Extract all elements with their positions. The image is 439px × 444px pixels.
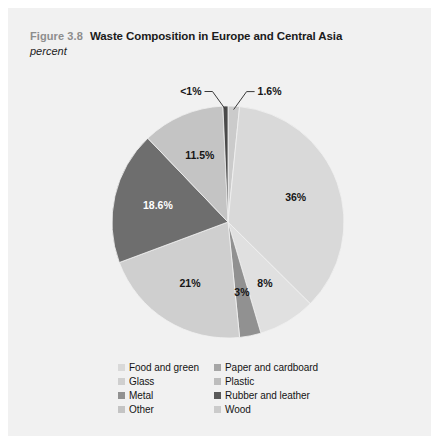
legend-swatch-icon [214, 364, 221, 371]
figure-page: Figure 3.8Waste Composition in Europe an… [8, 8, 431, 436]
legend-item[interactable]: Rubber and leather [214, 388, 348, 402]
legend-swatch-icon [118, 406, 125, 413]
legend-swatch-icon [214, 378, 221, 385]
legend-label: Other [129, 404, 154, 415]
pie-callout-label: 1.6% [258, 85, 283, 97]
pie-slice-label: 3% [234, 286, 250, 298]
pie-slice-group [112, 106, 344, 338]
pie-slice-label: 21% [179, 277, 201, 289]
legend-swatch-icon [214, 392, 221, 399]
legend-swatch-icon [118, 392, 125, 399]
legend-item[interactable]: Other [118, 402, 214, 416]
legend-item[interactable]: Paper and cardboard [214, 360, 348, 374]
legend-swatch-icon [118, 378, 125, 385]
legend-item[interactable]: Wood [214, 402, 348, 416]
pie-slice-label: 18.6% [143, 199, 173, 211]
legend-swatch-icon [118, 364, 125, 371]
legend-label: Rubber and leather [225, 390, 310, 401]
legend-label: Metal [129, 390, 153, 401]
pie-slice-label: 36% [285, 191, 307, 203]
legend-item[interactable]: Food and green [118, 360, 214, 374]
legend-label: Glass [129, 376, 154, 387]
legend-item[interactable]: Metal [118, 388, 214, 402]
legend-swatch-icon [214, 406, 221, 413]
legend-item[interactable]: Plastic [214, 374, 348, 388]
legend-label: Plastic [225, 376, 254, 387]
legend-label: Wood [225, 404, 251, 415]
chart-legend: Food and greenPaper and cardboardGlassPl… [118, 360, 348, 416]
legend-item[interactable]: Glass [118, 374, 214, 388]
pie-slice-label: 11.5% [185, 149, 215, 161]
pie-chart: 1.6%36%8%3%21%18.6%11.5%<1% [96, 70, 346, 355]
legend-label: Paper and cardboard [225, 362, 318, 373]
pie-slice-label: 8% [257, 277, 273, 289]
pie-callout-label: <1% [180, 85, 202, 97]
legend-label: Food and green [129, 362, 199, 373]
